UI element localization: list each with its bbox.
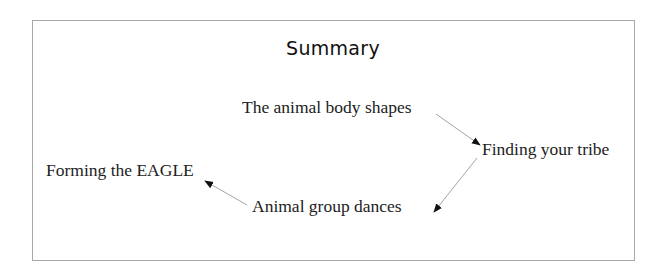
node-animal-body-shapes: The animal body shapes <box>242 99 412 117</box>
diagram-title: Summary <box>0 37 666 59</box>
node-animal-group-dances: Animal group dances <box>252 198 402 216</box>
node-forming-the-eagle: Forming the EAGLE <box>46 162 194 180</box>
node-finding-your-tribe: Finding your tribe <box>482 141 609 159</box>
